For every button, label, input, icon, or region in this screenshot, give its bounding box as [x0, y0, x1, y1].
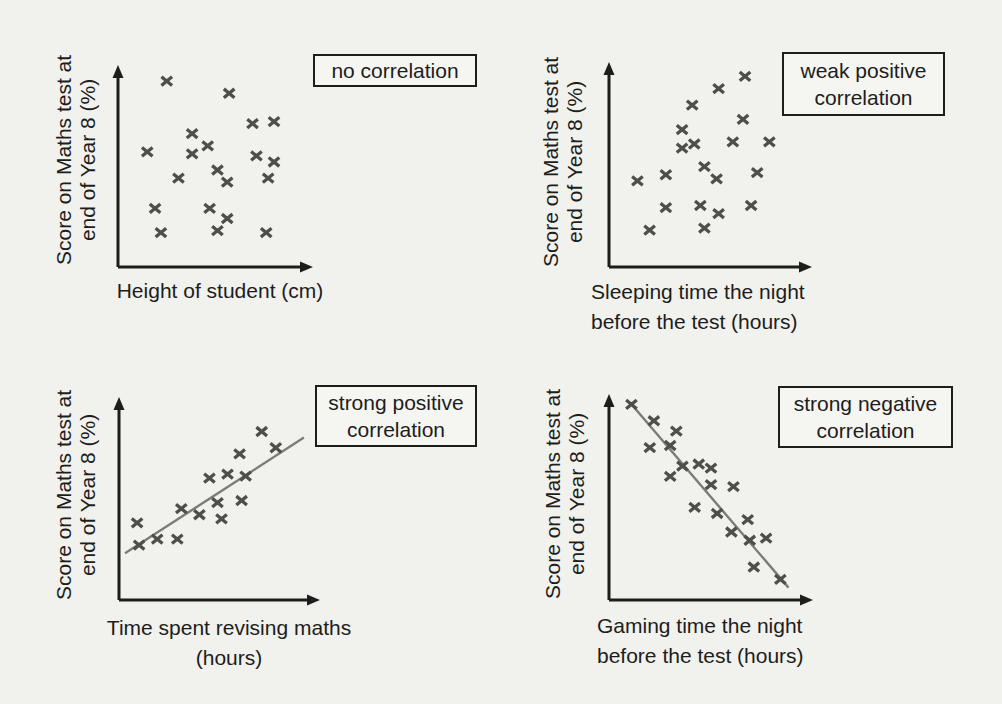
correlation-worksheet: Score on Maths test at end of Year 8 (%)… — [0, 0, 1002, 704]
correlation-annotation-box: strong negative correlation — [778, 386, 953, 448]
y-axis-label: Score on Maths test at end of Year 8 (%) — [541, 359, 589, 629]
y-axis-label: Score on Maths test at end of Year 8 (%) — [52, 25, 100, 295]
x-axis-label-line1: Height of student (cm) — [70, 276, 370, 306]
x-axis-label: Time spent revising maths (hours) — [79, 613, 379, 673]
y-axis-label: Score on Maths test at end of Year 8 (%) — [52, 360, 100, 630]
y-axis-label-line2: end of Year 8 (%) — [76, 25, 100, 295]
x-axis-label-line1: Time spent revising maths — [79, 613, 379, 643]
annotation-line1: no correlation — [331, 57, 458, 84]
x-axis-label-line2: before the test (hours) — [597, 641, 887, 671]
annotation-line1: strong negative — [794, 390, 938, 417]
x-axis-label: Height of student (cm) — [70, 276, 370, 306]
y-axis-label-line2: end of Year 8 (%) — [563, 27, 587, 297]
panel-no-correlation: Score on Maths test at end of Year 8 (%)… — [0, 0, 501, 352]
correlation-annotation-box: no correlation — [313, 54, 477, 87]
annotation-line2: correlation — [816, 417, 914, 444]
y-axis-label-line1: Score on Maths test at — [541, 359, 565, 629]
annotation-line2: correlation — [814, 84, 912, 111]
annotation-line2: correlation — [347, 416, 445, 443]
y-axis-label: Score on Maths test at end of Year 8 (%) — [539, 27, 587, 297]
x-axis-label-line1: Gaming time the night — [597, 611, 887, 641]
panel-strong-negative-correlation: Score on Maths test at end of Year 8 (%)… — [501, 352, 1002, 704]
y-axis-label-line2: end of Year 8 (%) — [565, 359, 589, 629]
panel-weak-positive-correlation: Score on Maths test at end of Year 8 (%)… — [501, 0, 1002, 352]
x-axis-label: Gaming time the night before the test (h… — [597, 611, 887, 671]
x-axis-label-line2: (hours) — [79, 643, 379, 673]
x-axis-label-line2: before the test (hours) — [591, 307, 881, 337]
x-axis-label-line1: Sleeping time the night — [591, 277, 881, 307]
y-axis-label-line1: Score on Maths test at — [52, 25, 76, 295]
panel-strong-positive-correlation: Score on Maths test at end of Year 8 (%)… — [0, 352, 501, 704]
y-axis-label-line1: Score on Maths test at — [52, 360, 76, 630]
correlation-annotation-box: strong positive correlation — [315, 385, 477, 447]
correlation-annotation-box: weak positive correlation — [782, 52, 945, 116]
annotation-line1: strong positive — [328, 389, 463, 416]
y-axis-label-line2: end of Year 8 (%) — [76, 360, 100, 630]
x-axis-label: Sleeping time the night before the test … — [591, 277, 881, 337]
annotation-line1: weak positive — [800, 57, 926, 84]
y-axis-label-line1: Score on Maths test at — [539, 27, 563, 297]
